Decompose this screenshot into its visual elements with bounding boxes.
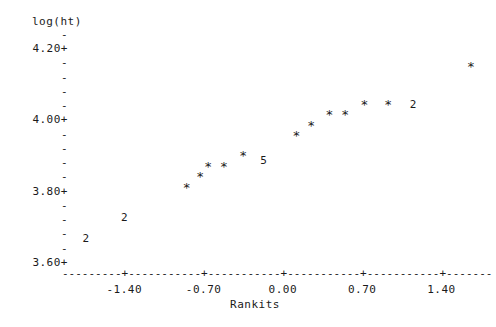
x-axis-tick-label: 1.40 (411, 284, 471, 295)
y-axis-minor-tick: - (12, 57, 68, 68)
y-axis-major-tick-label: 3.80+ (12, 186, 68, 197)
data-point-marker: * (182, 181, 191, 194)
data-point-marker: * (204, 160, 213, 173)
y-axis-major-tick-label: 4.00+ (12, 114, 68, 125)
y-axis-minor-tick: - (12, 100, 68, 111)
data-point-count-marker: 2 (120, 212, 129, 223)
y-axis-major-tick-label: 4.20+ (12, 43, 68, 54)
data-point-marker: * (292, 129, 301, 142)
y-axis-minor-tick: - (12, 171, 68, 182)
x-axis-tick-label: 0.70 (332, 284, 392, 295)
y-axis-minor-tick: - (12, 200, 68, 211)
y-axis-minor-tick: - (12, 228, 68, 239)
data-point-marker: * (341, 108, 350, 121)
y-axis-minor-tick: - (12, 143, 68, 154)
y-axis-minor-tick: - (12, 214, 68, 225)
data-point-count-marker: 2 (81, 233, 90, 244)
data-point-count-marker: 5 (259, 155, 268, 166)
y-axis-minor-tick: - (12, 86, 68, 97)
data-point-count-marker: 2 (409, 99, 418, 110)
data-point-marker: * (239, 149, 248, 162)
y-axis-minor-tick: - (12, 29, 68, 40)
x-axis-tick-label: -1.40 (94, 284, 154, 295)
data-point-marker: * (325, 108, 334, 121)
x-axis-line: ---------+-----------+-----------+------… (62, 268, 492, 279)
y-axis-minor-tick: - (12, 72, 68, 83)
data-point-marker: * (360, 98, 369, 111)
x-axis-tick-label: -0.70 (174, 284, 234, 295)
y-axis-major-tick-label: 3.60+ (12, 257, 68, 268)
data-point-marker: * (219, 160, 228, 173)
y-axis-minor-tick: - (12, 157, 68, 168)
x-axis-title: Rankits (215, 299, 295, 310)
x-axis-tick-label: 0.00 (253, 284, 313, 295)
y-axis-minor-tick: - (12, 129, 68, 140)
data-point-marker: * (466, 60, 475, 73)
data-point-marker: * (307, 119, 316, 132)
data-point-marker: * (384, 98, 393, 111)
y-axis-title: log(ht) (32, 16, 82, 27)
y-axis-minor-tick: - (12, 243, 68, 254)
rankit-plot-canvas: log(ht) -4.20+----4.00+----3.80+----3.60… (0, 0, 496, 327)
